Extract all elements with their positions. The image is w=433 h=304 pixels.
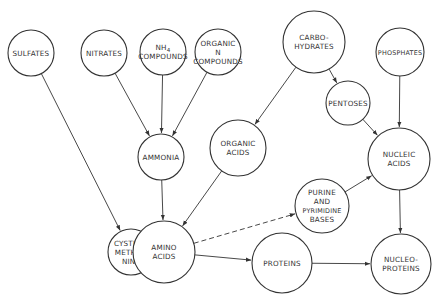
- node-label: NITRATES: [86, 49, 122, 58]
- edge-purine-to-nucleic_acids: [345, 176, 372, 192]
- node-organic-acids: ORGANICACIDS: [210, 120, 266, 176]
- nodes: SULFATESNITRATESNH4COMPOUNDSORGANICNCOMP…: [8, 11, 431, 294]
- node-phosphates: PHOSPHATES: [376, 28, 424, 76]
- node-label: PROTEINS: [382, 264, 420, 273]
- edge-nh4-to-ammonia: [161, 75, 162, 133]
- edge-sulfates-to-cystine: [41, 74, 120, 231]
- node-label: PHOSPHATES: [378, 49, 422, 57]
- node-label: HYDRATES: [294, 42, 334, 51]
- edge-ammonia-to-amino_acids: [162, 180, 163, 220]
- edge-amino_acids-to-proteins: [195, 255, 251, 260]
- node-ammonia: AMMONIA: [138, 134, 184, 180]
- node-nitrates: NITRATES: [81, 30, 127, 76]
- node-label: PURINE: [308, 188, 336, 197]
- node-label: PENTOSES: [328, 99, 368, 108]
- node-nucleic-acids: NUCLEICACIDS: [368, 128, 430, 190]
- node-carbohydrates: CARBO-HYDRATES: [283, 11, 345, 73]
- node-label: AMMONIA: [143, 153, 180, 162]
- node-organic-n: ORGANICNCOMPOUNDS: [193, 29, 243, 75]
- node-sulfates: SULFATES: [8, 30, 54, 76]
- edge-organic_acids-to-amino_acids: [183, 171, 222, 226]
- node-pentoses: PENTOSES: [326, 81, 370, 125]
- node-label: ORGANIC: [220, 139, 255, 148]
- node-label: AND: [314, 197, 331, 206]
- edge-nucleic_acids-to-nucleoproteins: [400, 190, 401, 233]
- node-label: NUCLEO-: [384, 255, 418, 264]
- node-label: PROTEINS: [263, 259, 301, 268]
- node-label: ACIDS: [387, 159, 410, 168]
- node-proteins: PROTEINS: [252, 233, 312, 293]
- node-label: SULFATES: [13, 49, 50, 58]
- node-purine: PURINEANDPYRIMIDINEBASES: [295, 179, 349, 233]
- node-nh4: NH4COMPOUNDS: [138, 29, 188, 75]
- node-label: NUCLEIC: [383, 150, 416, 159]
- node-label: COMPOUNDS: [193, 57, 243, 66]
- node-label: ORGANIC: [200, 39, 235, 48]
- node-label: CARBO-: [299, 33, 329, 42]
- edge-carbohydrates-to-organic_acids: [255, 67, 296, 124]
- edge-organic_n-to-ammonia: [172, 72, 207, 136]
- node-amino-acids: AMINOACIDS: [133, 221, 195, 283]
- metabolic-pathway-diagram: SULFATESNITRATESNH4COMPOUNDSORGANICNCOMP…: [0, 0, 433, 304]
- node-label: N: [215, 48, 221, 57]
- node-label: ACIDS: [152, 252, 175, 261]
- node-label: ACIDS: [226, 148, 249, 157]
- edge-carbohydrates-to-pentoses: [329, 69, 337, 83]
- node-nucleoproteins: NUCLEO-PROTEINS: [371, 234, 431, 294]
- node-label: COMPOUNDS: [138, 52, 188, 61]
- node-label: AMINO: [151, 243, 176, 252]
- edge-nitrates-to-ammonia: [115, 73, 149, 136]
- node-label: BASES: [310, 215, 335, 224]
- edge-pentoses-to-nucleic_acids: [363, 119, 378, 135]
- node-label: PYRIMIDINE: [303, 207, 342, 215]
